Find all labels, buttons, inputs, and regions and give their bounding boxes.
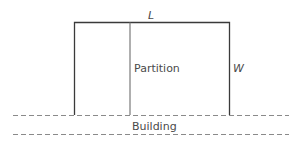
width-label: W	[233, 62, 245, 75]
building-label: Building	[132, 120, 177, 133]
partition-label: Partition	[134, 62, 180, 75]
diagram-canvas: L W Partition Building	[0, 0, 301, 148]
length-label: L	[148, 9, 154, 22]
